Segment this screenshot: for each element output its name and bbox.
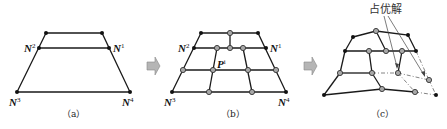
caption-b: （b） bbox=[221, 109, 245, 119]
node-label-n3: N3 bbox=[8, 96, 21, 108]
node-label-p: Pi bbox=[217, 58, 226, 70]
node-label-n2: N2 bbox=[23, 42, 36, 54]
node-label-n2: N2 bbox=[177, 42, 190, 54]
caption-c: （c） bbox=[371, 109, 394, 119]
node-label-n1: N1 bbox=[112, 42, 125, 54]
panel-b: N2 N1 Pi N3 N4 （b） bbox=[163, 30, 290, 119]
node-label-n4: N4 bbox=[277, 96, 290, 108]
node-label-n3: N3 bbox=[163, 96, 176, 108]
node-label-n1: N1 bbox=[269, 42, 282, 54]
right-arrow-icon bbox=[304, 57, 317, 75]
annotation-dominant-solution: 占优解 bbox=[369, 2, 402, 16]
panel-a: N2 N1 N3 N4 （a） bbox=[8, 31, 134, 119]
caption-a: （a） bbox=[62, 109, 85, 119]
node-label-n4: N4 bbox=[121, 96, 134, 108]
panel-c: 占优解 （c） bbox=[322, 2, 438, 119]
diagram-canvas: N2 N1 N3 N4 （a） N2 N1 Pi N3 N4 （b bbox=[0, 0, 447, 129]
right-arrow-icon bbox=[147, 57, 160, 75]
